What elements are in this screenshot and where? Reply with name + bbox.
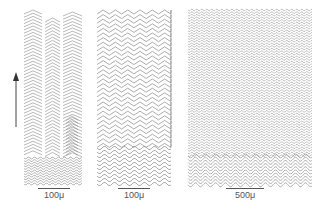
panel-b-pattern xyxy=(95,8,173,188)
scale-label-a: 100μ xyxy=(44,190,64,200)
panel-a-pattern xyxy=(22,8,84,188)
panel-a xyxy=(22,8,84,188)
panel-b xyxy=(95,8,173,188)
scale-label-b: 100μ xyxy=(124,190,144,200)
scale-bar-line xyxy=(38,188,70,189)
arrow-up-icon xyxy=(12,72,20,132)
scale-bar-a: 100μ xyxy=(38,188,70,200)
panel-c xyxy=(186,6,314,188)
scale-bar-c: 500μ xyxy=(226,188,264,200)
scale-bar-b: 100μ xyxy=(118,188,150,200)
panel-c-pattern xyxy=(186,6,314,188)
scale-bar-line xyxy=(226,188,264,189)
scale-label-c: 500μ xyxy=(235,190,255,200)
scale-bar-line xyxy=(118,188,150,189)
